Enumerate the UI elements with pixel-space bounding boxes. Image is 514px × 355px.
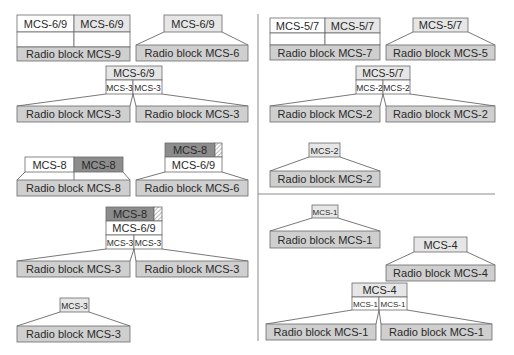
sub-cell-label: MCS-2 bbox=[383, 83, 410, 93]
payload-label: MCS-4 bbox=[362, 284, 396, 296]
payload-label: MCS-6/9 bbox=[80, 18, 123, 30]
sub-cell-label: MCS-3 bbox=[106, 83, 133, 93]
sub-cell-label: MCS-1 bbox=[353, 300, 378, 309]
payload-label: MCS-5/7 bbox=[419, 19, 462, 31]
payload-label: MCS-3 bbox=[61, 301, 88, 311]
radio-block-label: Radio block MCS-3 bbox=[145, 108, 240, 120]
radio-block-label: Radio block MCS-9 bbox=[26, 48, 121, 60]
sub-header-label: MCS-6/9 bbox=[112, 222, 155, 234]
sub-cell-label: MCS-3 bbox=[134, 83, 161, 93]
radio-block-label: Radio block MCS-3 bbox=[26, 263, 121, 275]
payload-label: MCS-5/7 bbox=[331, 20, 374, 32]
mcs-family-diagram: MCS-6/9 MCS-6/9 Radio block MCS-9 MCS-6/… bbox=[0, 0, 514, 355]
payload-label: MCS-5/7 bbox=[362, 67, 404, 79]
payload-label: MCS-6/9 bbox=[113, 67, 155, 79]
block-mcs5: MCS-5/7 Radio block MCS-5 bbox=[386, 18, 495, 60]
block-mcs6-padded: MCS-8 MCS-6/9 Radio block MCS-6 bbox=[136, 143, 248, 196]
block-mcs7: MCS-5/7 MCS-5/7 Radio block MCS-7 bbox=[270, 18, 380, 60]
radio-block-label: Radio block MCS-5 bbox=[393, 47, 488, 59]
payload-label: MCS-6/9 bbox=[24, 18, 67, 30]
block-mcs2-split: MCS-5/7 MCS-2 MCS-2 Radio block MCS-2 Ra… bbox=[270, 66, 495, 122]
radio-block-label: Radio block MCS-2 bbox=[278, 108, 373, 120]
block-mcs1-split: MCS-4 MCS-1 MCS-1 Radio block MCS-1 Radi… bbox=[266, 283, 492, 340]
sub-cell-label: MCS-1 bbox=[381, 300, 406, 309]
block-mcs6: MCS-6/9 Radio block MCS-6 bbox=[136, 15, 248, 61]
payload-label: MCS-6/9 bbox=[171, 18, 214, 30]
empty-cell-left bbox=[270, 33, 325, 45]
block-mcs8: MCS-8 MCS-8 Radio block MCS-8 bbox=[17, 157, 130, 196]
block-mcs2-single: MCS-2 Radio block MCS-2 bbox=[270, 143, 380, 187]
radio-block-label: Radio block MCS-3 bbox=[26, 108, 121, 120]
payload-label: MCS-1 bbox=[313, 208, 338, 217]
sub-header-label: MCS-6/9 bbox=[172, 159, 215, 171]
radio-block-label: Radio block MCS-6 bbox=[145, 182, 240, 194]
payload-label: MCS-8 bbox=[113, 208, 147, 220]
radio-block-label: Radio block MCS-3 bbox=[145, 263, 240, 275]
radio-block-label: Radio block MCS-1 bbox=[389, 326, 484, 338]
block-mcs3-split: MCS-6/9 MCS-3 MCS-3 Radio block MCS-3 Ra… bbox=[17, 66, 248, 122]
payload-label: MCS-8 bbox=[173, 144, 207, 156]
empty-cell-right bbox=[74, 32, 130, 47]
empty-cell-right bbox=[325, 33, 380, 45]
padding-hatch bbox=[154, 207, 162, 221]
radio-block-label: Radio block MCS-4 bbox=[393, 267, 488, 279]
radio-block-label: Radio block MCS-1 bbox=[274, 326, 369, 338]
padding-hatch bbox=[215, 143, 222, 157]
radio-block-label: Radio block MCS-2 bbox=[393, 108, 488, 120]
payload-label: MCS-8 bbox=[32, 159, 66, 171]
block-mcs1-single: MCS-1 Radio block MCS-1 bbox=[270, 205, 380, 248]
radio-block-label: Radio block MCS-2 bbox=[278, 173, 373, 185]
block-mcs3-single: MCS-3 Radio block MCS-3 bbox=[17, 298, 130, 342]
block-mcs4: MCS-4 Radio block MCS-4 bbox=[386, 237, 495, 281]
payload-label: MCS-5/7 bbox=[276, 20, 319, 32]
radio-block-label: Radio block MCS-6 bbox=[145, 47, 240, 59]
block-mcs3-padded-split: MCS-8 MCS-6/9 MCS-3 MCS-3 Radio block MC… bbox=[17, 207, 248, 277]
payload-label: MCS-8 bbox=[81, 159, 115, 171]
radio-block-label: Radio block MCS-1 bbox=[278, 234, 373, 246]
radio-block-label: Radio block MCS-3 bbox=[26, 328, 121, 340]
sub-cell-label: MCS-2 bbox=[356, 83, 383, 93]
radio-block-label: Radio block MCS-7 bbox=[278, 47, 373, 59]
sub-cell-label: MCS-3 bbox=[135, 238, 162, 248]
radio-block-label: Radio block MCS-8 bbox=[26, 182, 121, 194]
empty-cell-left bbox=[17, 32, 74, 47]
sub-cell-label: MCS-3 bbox=[107, 238, 134, 248]
payload-label: MCS-2 bbox=[310, 146, 338, 156]
block-mcs9: MCS-6/9 MCS-6/9 Radio block MCS-9 bbox=[17, 15, 130, 61]
payload-label: MCS-4 bbox=[423, 239, 457, 251]
